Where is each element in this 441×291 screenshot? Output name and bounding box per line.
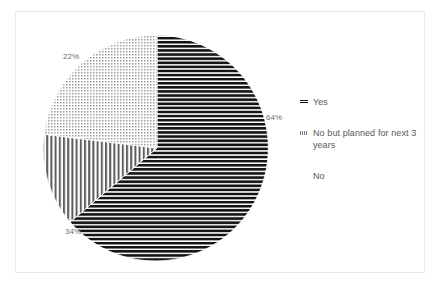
data-label-no: 22% [63,52,79,62]
legend-label-no: No [313,170,433,182]
legend-label-yes: Yes [313,96,433,108]
pie-svg [0,0,300,291]
legend-item-yes[interactable]: Yes [299,96,433,108]
legend-swatch-horizontal-stripe-icon [300,100,308,104]
legend-item-planned[interactable]: No but planned for next 3 years [299,127,433,151]
pie-plot-area [0,0,300,291]
legend-label-planned: No but planned for next 3 years [313,127,433,151]
legend-swatch-vertical-stripe-icon [300,131,308,135]
legend-swatch-dotted-icon [300,174,308,178]
legend-item-no[interactable]: No [299,170,433,182]
data-label-yes: 64% [266,113,282,123]
chart-legend: Yes No but planned for next 3 years No [299,96,433,182]
pie-slice-no [44,35,157,148]
pie-chart-figure: 22% 64% 34% Yes No but planned for next … [0,0,441,291]
data-label-planned: 34% [65,227,81,237]
